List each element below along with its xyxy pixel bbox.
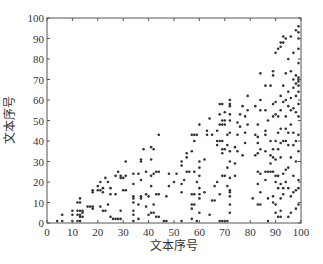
data-point	[287, 91, 290, 94]
data-point	[224, 175, 227, 178]
data-point	[198, 193, 201, 196]
data-point	[218, 193, 221, 196]
data-point	[224, 123, 227, 126]
data-point	[122, 177, 125, 180]
data-point	[157, 134, 160, 137]
data-point	[198, 197, 201, 200]
data-point	[244, 142, 247, 145]
data-point	[180, 220, 183, 223]
data-point	[221, 175, 224, 178]
data-point	[292, 175, 295, 178]
data-point	[244, 132, 247, 135]
data-point	[86, 205, 89, 208]
data-point	[279, 41, 282, 44]
data-point	[218, 140, 221, 143]
data-point	[292, 144, 295, 147]
data-point	[297, 134, 300, 137]
data-point	[104, 177, 107, 180]
data-point	[79, 214, 82, 217]
data-point	[89, 205, 92, 208]
y-tick-label: 40	[33, 135, 45, 147]
data-point	[234, 175, 237, 178]
data-point	[292, 78, 295, 81]
data-point	[185, 156, 188, 159]
data-point	[236, 134, 239, 137]
data-point	[119, 175, 122, 178]
data-point	[264, 134, 267, 137]
data-point	[152, 148, 155, 151]
data-point	[229, 177, 232, 180]
data-point	[183, 179, 186, 182]
data-point	[79, 201, 82, 204]
scatter-chart: 0102030405060708090100 01020304050607080…	[0, 0, 323, 264]
data-point	[224, 148, 227, 151]
data-point	[218, 103, 221, 106]
data-point	[109, 187, 112, 190]
data-point	[137, 173, 140, 176]
data-point	[91, 189, 94, 192]
data-point	[277, 148, 280, 151]
data-point	[79, 220, 82, 223]
data-point	[198, 123, 201, 126]
data-point	[284, 115, 287, 118]
data-point	[229, 99, 232, 102]
data-point	[264, 170, 267, 173]
data-point	[165, 220, 168, 223]
data-point	[218, 123, 221, 126]
data-point	[239, 125, 242, 128]
data-point	[147, 214, 150, 217]
data-point	[279, 127, 282, 130]
data-point	[234, 162, 237, 165]
data-point	[279, 209, 282, 212]
data-point	[119, 209, 122, 212]
data-point	[152, 211, 155, 214]
data-point	[282, 35, 285, 38]
y-tick-label: 20	[33, 176, 45, 188]
data-point	[297, 76, 300, 79]
data-point	[124, 175, 127, 178]
data-point	[290, 97, 293, 100]
data-point	[221, 119, 224, 122]
data-point	[279, 197, 282, 200]
data-point	[190, 193, 193, 196]
data-point	[226, 185, 229, 188]
data-point	[259, 148, 262, 151]
data-point	[277, 132, 280, 135]
data-point	[279, 95, 282, 98]
data-point	[91, 205, 94, 208]
data-point	[152, 203, 155, 206]
x-axis-label: 文本序号	[150, 238, 198, 253]
data-point	[282, 84, 285, 87]
data-point	[282, 173, 285, 176]
data-point	[155, 193, 158, 196]
data-point	[61, 220, 64, 223]
y-tick-label: 0	[39, 217, 45, 229]
data-point	[279, 216, 282, 219]
data-point	[267, 197, 270, 200]
data-point	[97, 189, 100, 192]
data-point	[206, 134, 209, 137]
data-point	[284, 72, 287, 75]
data-point	[221, 148, 224, 151]
data-point	[274, 113, 277, 116]
data-point	[229, 103, 232, 106]
data-point	[292, 107, 295, 110]
data-point	[277, 187, 280, 190]
data-point	[99, 181, 102, 184]
data-point	[190, 218, 193, 221]
data-point	[295, 189, 298, 192]
data-point	[277, 47, 280, 50]
y-tick-label: 60	[33, 94, 45, 106]
data-point	[290, 109, 293, 112]
data-point	[190, 134, 193, 137]
data-point	[297, 203, 300, 206]
data-point	[290, 195, 293, 198]
data-point	[81, 209, 84, 212]
data-point	[190, 150, 193, 153]
data-point	[213, 199, 216, 202]
data-point	[269, 140, 272, 143]
x-tick-label: 0	[44, 226, 50, 238]
data-point	[282, 41, 285, 44]
data-point	[196, 181, 199, 184]
data-point	[234, 146, 237, 149]
